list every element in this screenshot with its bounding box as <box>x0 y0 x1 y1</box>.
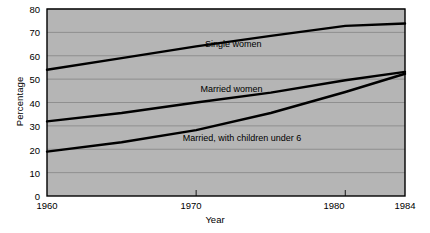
ytick-label-20: 20 <box>10 145 40 156</box>
xtick-label-1970: 1970 <box>169 200 213 211</box>
chart-figure: 80 70 60 50 40 30 20 10 0 1960 1970 1980… <box>0 0 430 233</box>
series-label-married-children: Married, with children under 6 <box>183 133 302 143</box>
xtick-label-1960: 1960 <box>25 200 69 211</box>
chart-canvas <box>0 0 430 233</box>
y-axis-title: Percentage <box>14 57 25 147</box>
ytick-label-10: 10 <box>10 168 40 179</box>
series-label-single-women: Single women <box>205 39 262 49</box>
ytick-label-70: 70 <box>10 27 40 38</box>
ytick-label-80: 80 <box>10 4 40 15</box>
xtick-label-1984: 1984 <box>383 200 427 211</box>
series-label-married-women: Married women <box>201 84 263 94</box>
x-axis-title: Year <box>0 214 430 225</box>
xtick-label-1980: 1980 <box>312 200 356 211</box>
